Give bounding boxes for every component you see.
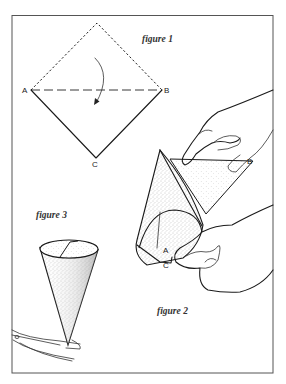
arrowhead-icon <box>94 98 100 105</box>
fold-arrow-icon <box>95 58 104 103</box>
fingernail <box>205 258 216 262</box>
label-c: C <box>92 160 98 169</box>
label-a: A <box>163 246 169 255</box>
frame-border <box>12 16 273 374</box>
upper-hand-outline <box>182 90 273 165</box>
label-c: C <box>163 261 169 270</box>
illustration-canvas: figure 1 A B C A C B <box>0 0 286 384</box>
figure-1: figure 1 A B C <box>22 23 173 169</box>
figure-2-caption: figure 2 <box>157 306 188 316</box>
label-a: A <box>22 86 28 95</box>
upper-fingers <box>213 136 241 150</box>
figure-3-caption: figure 3 <box>36 210 67 220</box>
label-b: B <box>164 86 169 95</box>
figure-1-caption: figure 1 <box>142 34 173 44</box>
figure-3: figure 3 <box>12 210 98 361</box>
figure-2: A C B figure 2 <box>136 90 273 316</box>
